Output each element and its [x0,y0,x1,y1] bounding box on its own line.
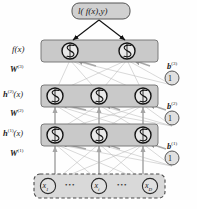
bias-2-label: b(2) [167,101,177,111]
hidden2-neuron-1 [47,88,63,104]
hidden-layer-2-label: h(2)(x) [3,89,23,99]
bias-3-label: b(3) [167,61,177,71]
output-layer-label-tail: (x) [15,44,25,54]
output-layer-band [41,40,158,62]
input-ellipsis-1: ••• [65,181,75,189]
weights-1-label: W(1) [10,148,23,158]
input-1-sub: 1 [46,187,49,192]
loss-to-output-arrows [73,20,125,40]
bias-3-value: 1 [168,74,172,83]
input-node-3-label: xD [145,181,152,192]
hidden1-neuron-1 [47,127,63,143]
hidden1-tail: (x) [14,128,23,138]
input-node-2-label: xi [95,181,100,192]
input-node-1-label: x1 [43,181,49,192]
hidden2-neuron-3 [135,88,151,104]
bias-1-label: b(1) [167,141,177,151]
output-neuron-1 [62,43,78,59]
bias-1-value: 1 [168,154,172,163]
output-layer-label: f(x) [12,44,25,54]
weights-1-base: W [10,148,18,158]
hidden-layer-1-label: h(1)(x) [3,128,23,138]
input-3-sub: D [149,187,153,192]
weights-3-label: W(3) [10,64,23,74]
bias-1-sup: (1) [171,141,177,146]
input-ellipsis-2: ••• [117,181,127,189]
figure-caption [0,200,197,209]
output-neuron-2 [119,43,135,59]
hidden1-neuron-2 [91,127,107,143]
hidden1-neuron-3 [135,127,151,143]
bias-2-sup: (2) [171,101,177,106]
weights-2-base: W [10,108,18,118]
weights-3-base: W [10,64,18,74]
bias-3-sup: (3) [171,61,177,66]
weights-2-sup: (2) [18,108,24,113]
hidden2-tail: (x) [14,89,23,99]
bias-2-value: 1 [168,114,172,123]
neural-network-figure: l( f(x),y) f(x) W(3) h(2)(x) W(2) h(1)(x… [0,0,197,209]
weights-1-sup: (1) [18,148,24,153]
input-2-sub: i [98,187,99,192]
weights-2-label: W(2) [10,108,23,118]
weights-3-sup: (3) [18,64,24,69]
loss-node-label: l( f(x),y) [78,6,107,16]
hidden2-neuron-2 [91,88,107,104]
